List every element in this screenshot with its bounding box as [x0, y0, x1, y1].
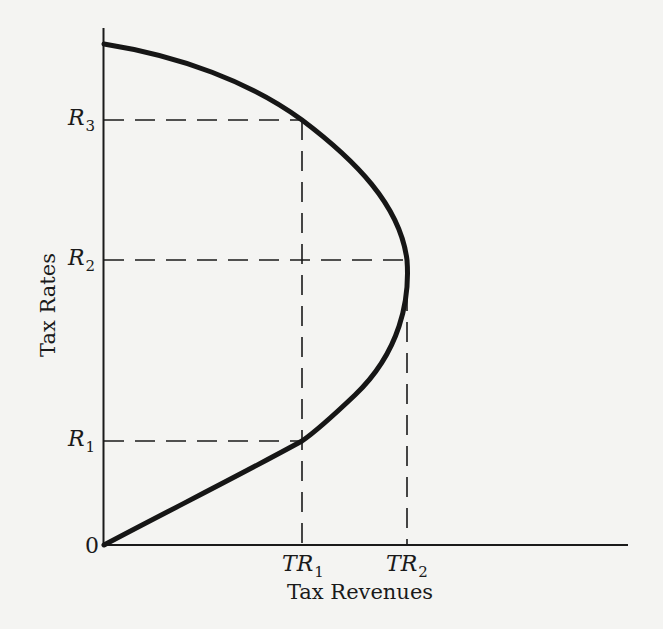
y-axis-title: Tax Rates	[38, 253, 59, 357]
x-axis-title: Tax Revenues	[287, 582, 433, 603]
tick-r1-sub: 1	[86, 438, 96, 456]
tick-label-r2: R2	[68, 247, 95, 269]
tick-tr1-main: TR	[282, 551, 313, 576]
tick-r3-sub: 3	[86, 117, 96, 135]
tick-r3-main: R	[68, 105, 85, 130]
tick-r1-main: R	[68, 426, 85, 451]
guide-lines	[104, 120, 407, 545]
tick-label-tr2: TR2	[386, 553, 428, 575]
tick-tr2-sub: 2	[418, 563, 428, 581]
laffer-curve-chart	[0, 0, 663, 629]
tick-tr2-main: TR	[386, 551, 417, 576]
tick-label-r3: R3	[68, 107, 95, 129]
tick-r2-main: R	[68, 245, 85, 270]
laffer-curve	[104, 44, 407, 545]
tick-label-r1: R1	[68, 428, 95, 450]
tick-tr1-sub: 1	[314, 563, 324, 581]
tick-r2-sub: 2	[86, 257, 96, 275]
origin-label: 0	[85, 535, 99, 557]
tick-label-tr1: TR1	[282, 553, 324, 575]
